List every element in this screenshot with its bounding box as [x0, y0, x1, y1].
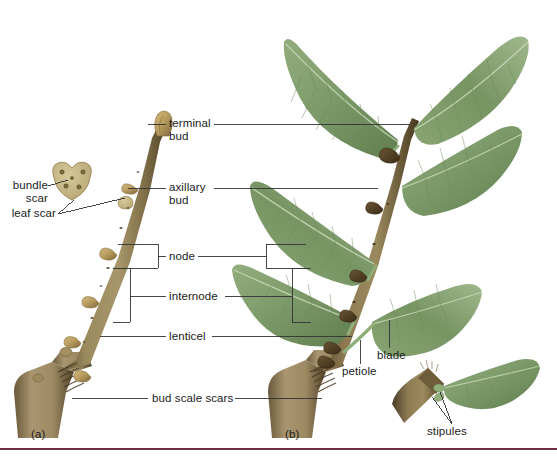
label-axillary-bud: axillary bud — [169, 181, 206, 207]
illustration-layer — [0, 0, 557, 457]
label-blade: blade — [377, 349, 406, 362]
label-leaf-scar: leaf scar — [2, 207, 56, 220]
leaf-scar-on-twig — [118, 196, 133, 209]
leader-stipules-2 — [432, 397, 452, 424]
winter-twig — [14, 111, 172, 438]
label-internode: internode — [169, 290, 218, 303]
stipule-detail — [392, 359, 540, 423]
label-subfigure-b: (b) — [285, 428, 299, 441]
label-terminal-bud: terminal bud — [169, 117, 211, 143]
label-petiole: petiole — [342, 365, 377, 378]
leaf-scar-detail — [53, 162, 92, 200]
label-bundle-scar: bundle scar — [2, 179, 48, 205]
label-stipules: stipules — [427, 425, 467, 438]
label-lenticel: lenticel — [169, 330, 206, 343]
leader-leaf-scar-2 — [58, 198, 125, 214]
leaf-top-left — [284, 39, 398, 158]
label-bud-scale-scars: bud scale scars — [152, 392, 233, 405]
label-subfigure-a: (a) — [31, 428, 45, 441]
label-node: node — [169, 250, 195, 263]
figure-canvas: bundle scar leaf scar terminal bud axill… — [0, 0, 557, 457]
